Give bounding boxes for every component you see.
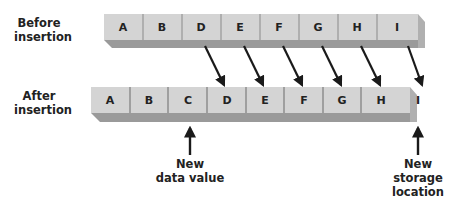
before-cell-a: A: [119, 21, 128, 34]
new-storage-location-label: New storage location: [389, 157, 447, 199]
before-cell-h: H: [352, 21, 361, 34]
shift-arrow-g: [322, 46, 341, 85]
shift-arrow-d: [205, 46, 224, 85]
after-cell-a: A: [106, 94, 115, 107]
after-cell-h: H: [376, 94, 385, 107]
after-cell-e: E: [261, 94, 269, 107]
after-cell-g: G: [337, 94, 346, 107]
before-cell-d: D: [196, 21, 205, 34]
new-storage-line2: storage: [389, 171, 447, 185]
after-array: A B C D E F G H I: [91, 87, 420, 122]
after-cell-f: F: [300, 94, 308, 107]
before-cell-f: F: [275, 21, 283, 34]
new-data-line2: data value: [150, 171, 230, 185]
shift-arrows: [205, 46, 422, 85]
shift-arrow-e: [244, 46, 263, 85]
before-cell-b: B: [158, 21, 166, 34]
after-cell-i: I: [416, 94, 420, 107]
after-cell-d: D: [222, 94, 231, 107]
new-data-value-label: New data value: [150, 157, 230, 185]
shift-arrow-i: [408, 46, 422, 85]
new-data-line1: New: [150, 157, 230, 171]
before-cell-e: E: [236, 21, 244, 34]
new-storage-line1: New: [389, 157, 447, 171]
after-cell-b: B: [145, 94, 153, 107]
before-cell-g: G: [313, 21, 322, 34]
shift-arrow-f: [283, 46, 302, 85]
after-cell-c: C: [184, 94, 192, 107]
new-storage-line3: location: [389, 185, 447, 199]
shift-arrow-h: [361, 46, 380, 85]
before-cell-i: I: [395, 21, 399, 34]
before-array: A B D E F G H I: [104, 14, 425, 48]
